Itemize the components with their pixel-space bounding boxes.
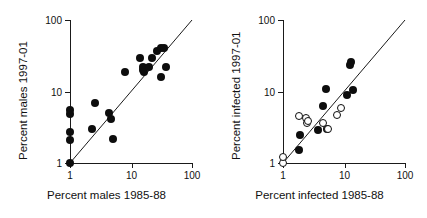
data-point-filled bbox=[66, 106, 74, 114]
x-axis-title: Percent infected 1985-88 bbox=[213, 189, 426, 201]
x-tick-label: 1 bbox=[268, 170, 298, 181]
data-point-filled bbox=[66, 159, 74, 167]
data-point-open bbox=[324, 125, 332, 133]
data-point-filled bbox=[148, 54, 156, 62]
plot-area-left bbox=[70, 20, 192, 163]
data-point-filled bbox=[295, 146, 303, 154]
data-point-filled bbox=[136, 54, 144, 62]
data-point-filled bbox=[314, 126, 322, 134]
data-point-filled bbox=[347, 58, 355, 66]
data-point-filled bbox=[66, 128, 74, 136]
x-tick-label: 10 bbox=[117, 170, 147, 181]
data-point-filled bbox=[296, 131, 304, 139]
y-axis-title: Percent infected 1997-01 bbox=[230, 31, 242, 160]
data-point-filled bbox=[107, 115, 115, 123]
data-point-filled bbox=[121, 68, 129, 76]
x-axis-title: Percent males 1985-88 bbox=[0, 189, 213, 201]
x-tick-mark bbox=[345, 163, 346, 168]
data-point-open bbox=[337, 104, 345, 112]
y-tick-label: 100 bbox=[22, 15, 62, 26]
data-point-filled bbox=[66, 136, 74, 144]
data-point-filled bbox=[88, 125, 96, 133]
chart-panel-right: 100 10 1 1 10 100 Percent infected 1985-… bbox=[213, 0, 426, 218]
x-tick-label: 10 bbox=[330, 170, 360, 181]
x-tick-label: 100 bbox=[390, 170, 420, 181]
identity-reference-line bbox=[70, 20, 192, 163]
figure-container: 100 10 1 1 10 100 Percent males 1985-88 … bbox=[0, 0, 427, 218]
data-point-filled bbox=[162, 63, 170, 71]
x-tick-mark bbox=[192, 163, 193, 168]
data-point-open bbox=[279, 153, 287, 161]
chart-panel-left: 100 10 1 1 10 100 Percent males 1985-88 … bbox=[0, 0, 213, 218]
y-tick-label: 100 bbox=[235, 15, 275, 26]
data-point-filled bbox=[91, 99, 99, 107]
data-point-filled bbox=[157, 73, 165, 81]
y-axis-title: Percent males 1997-01 bbox=[17, 41, 29, 160]
x-tick-mark bbox=[132, 163, 133, 168]
data-point-filled bbox=[349, 86, 357, 94]
x-tick-mark bbox=[405, 163, 406, 168]
data-point-filled bbox=[319, 102, 327, 110]
data-point-filled bbox=[145, 63, 153, 71]
data-point-open bbox=[304, 117, 312, 125]
plot-area-right bbox=[283, 20, 405, 163]
x-tick-label: 100 bbox=[177, 170, 207, 181]
data-point-filled bbox=[322, 85, 330, 93]
data-point-filled bbox=[109, 135, 117, 143]
x-tick-label: 1 bbox=[55, 170, 85, 181]
data-point-filled bbox=[160, 44, 168, 52]
